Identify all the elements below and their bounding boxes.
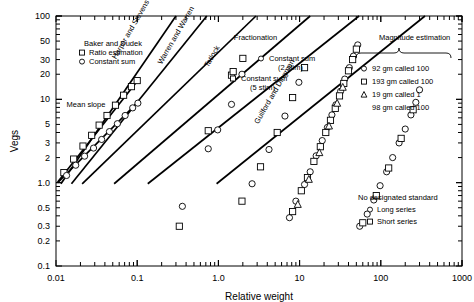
y-tick-label: 0.2 xyxy=(37,236,50,246)
marker-square xyxy=(120,92,126,98)
marker-circle xyxy=(282,113,288,119)
marker-square xyxy=(231,76,236,81)
marker-square xyxy=(350,56,356,62)
marker-circle xyxy=(135,100,141,106)
marker-circle xyxy=(80,59,85,64)
y-tick-label: 0.3 xyxy=(37,221,50,231)
y-tick-label: 50 xyxy=(40,36,50,46)
marker-circle xyxy=(63,172,69,178)
marker-square xyxy=(240,55,246,61)
marker-square xyxy=(257,164,263,170)
x-tick-label: 0.01 xyxy=(47,273,65,283)
marker-circle xyxy=(90,145,96,151)
marker-square xyxy=(353,46,359,52)
legend-block: Baker and DudekRatio estimationConstant … xyxy=(80,39,143,66)
marker-square xyxy=(80,50,85,55)
marker-circle xyxy=(106,129,112,135)
marker-square xyxy=(362,79,367,84)
marker-square xyxy=(386,165,392,171)
marker-circle xyxy=(296,79,302,85)
y-tick-label: 30 xyxy=(40,55,50,65)
marker-square xyxy=(89,132,95,138)
chart-background xyxy=(0,0,474,302)
legend-item-label: Constant sum xyxy=(89,57,135,66)
chart-root: 0.010.11.0101001000 0.10.20.30.51.023510… xyxy=(0,0,474,302)
marker-square xyxy=(317,144,323,150)
marker-circle xyxy=(368,207,373,212)
marker-square xyxy=(205,128,211,134)
x-tick-label: 1.0 xyxy=(212,273,225,283)
marker-circle xyxy=(362,66,367,71)
marker-circle xyxy=(377,183,383,189)
marker-circle xyxy=(99,136,105,142)
marker-square xyxy=(327,117,333,123)
log-log-scatter-chart: 0.010.11.0101001000 0.10.20.30.51.023510… xyxy=(0,0,474,302)
marker-circle xyxy=(81,153,87,159)
annotation-fractionation: Fractionation xyxy=(234,33,277,42)
y-tick-label: 0.1 xyxy=(37,261,50,271)
legend-item-label: 19 gm called 1 xyxy=(372,90,421,99)
marker-square xyxy=(345,68,351,74)
marker-square xyxy=(96,122,102,128)
legend-item-label: 92 gm called 100 xyxy=(372,64,429,73)
legend-item-label: 193 gm called 100 xyxy=(372,77,433,86)
y-tick-label: 5 xyxy=(45,119,50,129)
y-tick-label: 1.0 xyxy=(37,178,50,188)
x-tick-label: 0.1 xyxy=(131,273,144,283)
legend-item-label: Short series xyxy=(377,217,417,226)
x-tick-label: 1000 xyxy=(452,273,472,283)
marker-square xyxy=(336,93,342,99)
marker-circle xyxy=(114,121,120,127)
marker-circle xyxy=(286,215,292,221)
marker-square xyxy=(290,94,296,100)
marker-circle xyxy=(73,162,79,168)
marker-square xyxy=(290,208,296,214)
marker-square xyxy=(80,143,86,149)
y-tick-label: 20 xyxy=(40,69,50,79)
marker-square xyxy=(176,223,182,229)
legend-item-label: 98 gm called 100 xyxy=(372,103,429,112)
legend-item-label: Constant sum xyxy=(241,74,287,83)
y-tick-label: 10 xyxy=(40,94,50,104)
marker-square xyxy=(368,219,373,224)
marker-square xyxy=(230,69,236,75)
marker-square xyxy=(71,156,77,162)
marker-circle xyxy=(179,203,185,209)
marker-circle xyxy=(390,154,396,160)
x-axis-label: Relative weight xyxy=(225,291,293,302)
legend-item-label: Ratio estimation xyxy=(89,48,143,57)
y-tick-label: 3 xyxy=(45,138,50,148)
y-axis-label: Vegs xyxy=(9,130,20,152)
marker-circle xyxy=(228,101,234,107)
x-tick-label: 10 xyxy=(295,273,305,283)
marker-circle xyxy=(249,181,255,187)
marker-circle xyxy=(307,169,313,175)
marker-square xyxy=(360,220,366,226)
legend-item-sublabel: (2 stim) xyxy=(278,63,304,72)
marker-square xyxy=(274,129,280,135)
marker-square xyxy=(134,77,140,83)
x-tick-label: 100 xyxy=(373,273,388,283)
marker-square xyxy=(298,188,304,194)
marker-square xyxy=(239,198,245,204)
marker-square xyxy=(323,129,329,135)
legend-title: Baker and Dudek xyxy=(84,39,142,48)
marker-square xyxy=(112,102,118,108)
legend-title: No designated standard xyxy=(358,193,438,202)
marker-circle xyxy=(266,146,272,152)
y-tick-label: 2 xyxy=(45,153,50,163)
y-tick-label: 100 xyxy=(35,11,50,21)
marker-circle xyxy=(130,105,136,111)
legend-item-label: Constant sum xyxy=(269,54,315,63)
legend-item-label: Long series xyxy=(377,205,416,214)
marker-square xyxy=(311,158,317,164)
marker-circle xyxy=(259,56,264,61)
y-tick-label: 0.5 xyxy=(37,203,50,213)
marker-circle xyxy=(215,127,221,133)
annotation-magnitude-estimation: Magnitude estimation xyxy=(379,33,450,42)
marker-square xyxy=(398,135,404,141)
marker-circle xyxy=(319,137,325,143)
marker-circle xyxy=(402,126,408,132)
legend-item-sublabel: (5 stim) xyxy=(250,83,276,92)
marker-square xyxy=(128,84,134,90)
